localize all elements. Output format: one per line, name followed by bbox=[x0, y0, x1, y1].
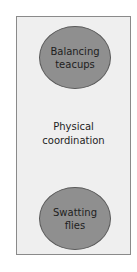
axis-label: Physical coordination bbox=[16, 120, 131, 148]
bottom-node-circle: Swatting flies bbox=[39, 187, 111, 250]
top-node-label: Balancing teacups bbox=[50, 45, 99, 71]
bottom-node-label: Swatting flies bbox=[53, 206, 97, 232]
top-node-circle: Balancing teacups bbox=[39, 26, 111, 89]
